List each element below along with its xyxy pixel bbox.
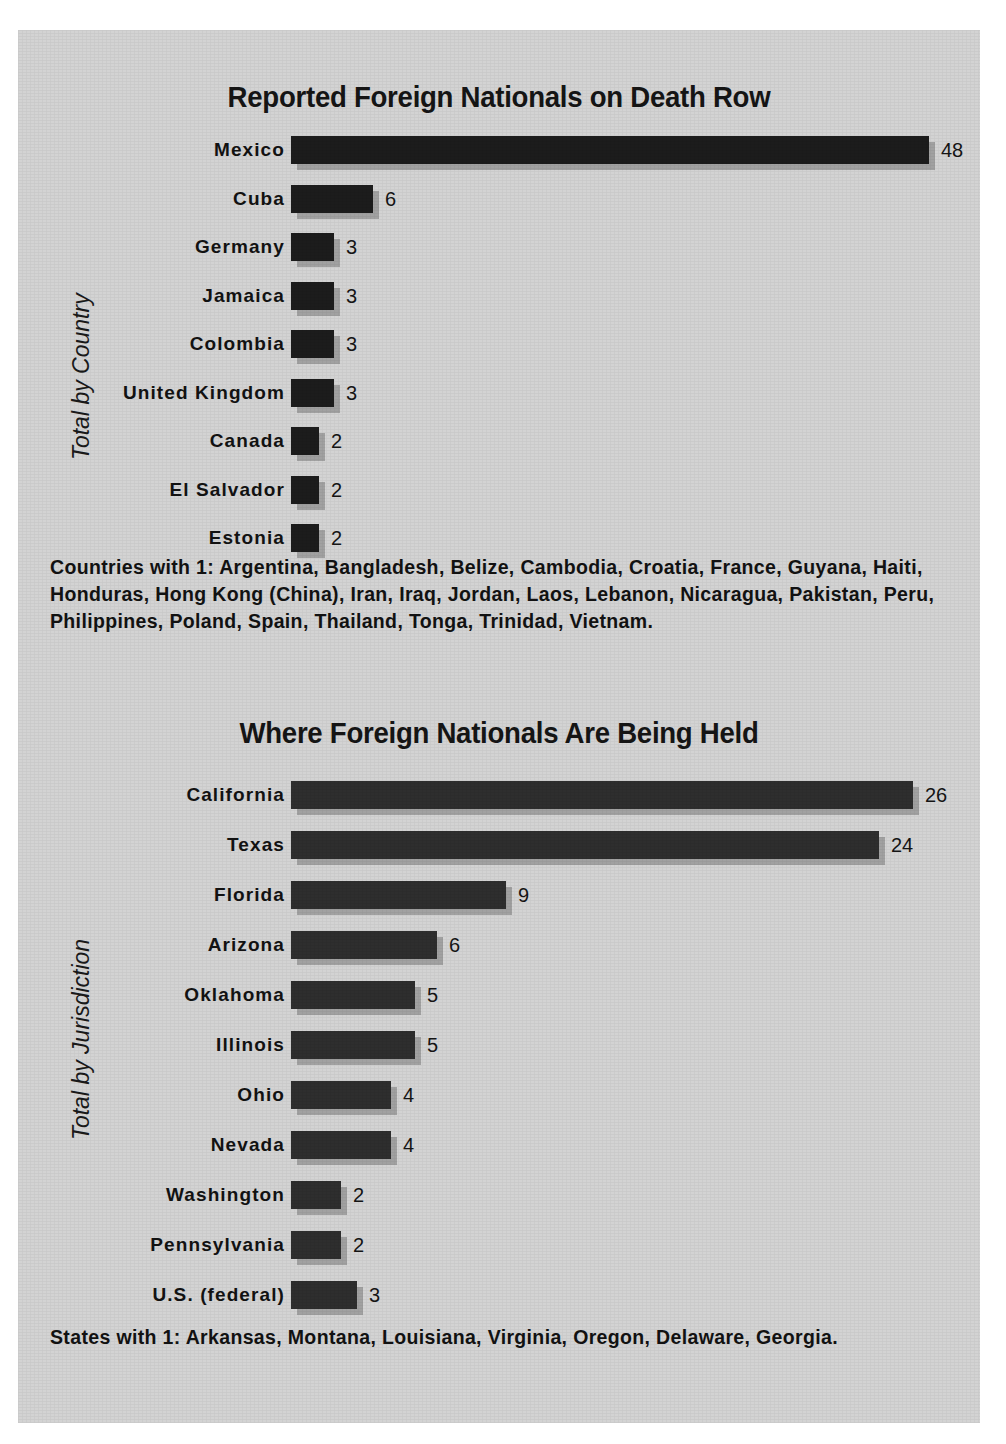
- bar-value-label: 2: [331, 424, 342, 458]
- bar: [291, 476, 319, 504]
- bar-value-label: 4: [403, 1078, 414, 1112]
- bar: [291, 233, 334, 261]
- bar-value-label: 2: [353, 1228, 364, 1262]
- bar-row: Canada2: [18, 424, 980, 458]
- bar-row: Oklahoma5: [18, 978, 980, 1012]
- bar-row: Germany3: [18, 230, 980, 264]
- bar: [291, 881, 506, 909]
- bar-row: Colombia3: [18, 327, 980, 361]
- bar-value-label: 6: [385, 182, 396, 216]
- bar: [291, 282, 334, 310]
- bar-row-label: Cuba: [18, 182, 285, 216]
- chart1-title: Reported Foreign Nationals on Death Row: [56, 80, 941, 114]
- bar-row-label: El Salvador: [18, 473, 285, 507]
- bar-row-label: Germany: [18, 230, 285, 264]
- bar-value-label: 2: [331, 521, 342, 555]
- bar-row-label: Oklahoma: [18, 978, 285, 1012]
- chart2-title: Where Foreign Nationals Are Being Held: [56, 716, 941, 750]
- bar-row-label: United Kingdom: [18, 376, 285, 410]
- bar: [291, 931, 437, 959]
- bar: [291, 1181, 341, 1209]
- bar-value-label: 2: [331, 473, 342, 507]
- bar-value-label: 5: [427, 1028, 438, 1062]
- bar-row-label: Pennsylvania: [18, 1228, 285, 1262]
- bar-value-label: 3: [346, 327, 357, 361]
- bar: [291, 831, 879, 859]
- bar-value-label: 9: [518, 878, 529, 912]
- bar-row: Illinois5: [18, 1028, 980, 1062]
- bar-row-label: Illinois: [18, 1028, 285, 1062]
- bar: [291, 427, 319, 455]
- bar: [291, 136, 929, 164]
- bar-row-label: Jamaica: [18, 279, 285, 313]
- bar-row: United Kingdom3: [18, 376, 980, 410]
- bar-value-label: 26: [925, 778, 947, 812]
- bar-row: California26: [18, 778, 980, 812]
- bar-row-label: Mexico: [18, 133, 285, 167]
- bar-value-label: 2: [353, 1178, 364, 1212]
- bar-row-label: Nevada: [18, 1128, 285, 1162]
- bar: [291, 524, 319, 552]
- bar: [291, 330, 334, 358]
- bar-row: U.S. (federal)3: [18, 1278, 980, 1312]
- bar-row: Estonia2: [18, 521, 980, 555]
- bar-row-label: Ohio: [18, 1078, 285, 1112]
- bar-value-label: 3: [369, 1278, 380, 1312]
- bar-row-label: Florida: [18, 878, 285, 912]
- bar: [291, 1231, 341, 1259]
- bar: [291, 1131, 391, 1159]
- bar: [291, 1081, 391, 1109]
- bar-value-label: 5: [427, 978, 438, 1012]
- bar-row: El Salvador2: [18, 473, 980, 507]
- page-root: Reported Foreign Nationals on Death Row …: [0, 0, 1006, 1444]
- bar: [291, 981, 415, 1009]
- bar-row: Cuba6: [18, 182, 980, 216]
- bar: [291, 185, 373, 213]
- bar: [291, 1281, 357, 1309]
- bar-row-label: Washington: [18, 1178, 285, 1212]
- bar-row-label: Arizona: [18, 928, 285, 962]
- bar-row: Arizona6: [18, 928, 980, 962]
- bar-value-label: 24: [891, 828, 913, 862]
- bar-value-label: 3: [346, 279, 357, 313]
- bar-row: Jamaica3: [18, 279, 980, 313]
- chart2-footnote: States with 1: Arkansas, Montana, Louisi…: [50, 1324, 970, 1351]
- bar-row: Ohio4: [18, 1078, 980, 1112]
- bar-value-label: 4: [403, 1128, 414, 1162]
- bar-row: Nevada4: [18, 1128, 980, 1162]
- bar: [291, 1031, 415, 1059]
- chart1-footnote: Countries with 1: Argentina, Bangladesh,…: [50, 554, 950, 635]
- bar-row: Texas24: [18, 828, 980, 862]
- bar-value-label: 6: [449, 928, 460, 962]
- bar-row-label: Texas: [18, 828, 285, 862]
- bar-row: Mexico48: [18, 133, 980, 167]
- bar-row-label: California: [18, 778, 285, 812]
- bar: [291, 379, 334, 407]
- bar-row: Florida9: [18, 878, 980, 912]
- bar-row-label: Canada: [18, 424, 285, 458]
- bar-row: Pennsylvania2: [18, 1228, 980, 1262]
- bar-row: Washington2: [18, 1178, 980, 1212]
- bar-row-label: Colombia: [18, 327, 285, 361]
- bar-row-label: Estonia: [18, 521, 285, 555]
- bar-row-label: U.S. (federal): [18, 1278, 285, 1312]
- scanned-page-area: Reported Foreign Nationals on Death Row …: [18, 30, 980, 1423]
- bar: [291, 781, 913, 809]
- bar-value-label: 48: [941, 133, 963, 167]
- bar-value-label: 3: [346, 230, 357, 264]
- bar-value-label: 3: [346, 376, 357, 410]
